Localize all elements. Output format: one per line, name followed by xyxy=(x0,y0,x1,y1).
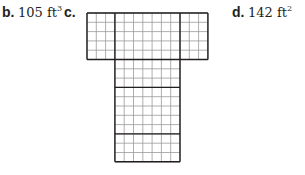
prism-net-diagram xyxy=(0,0,305,175)
